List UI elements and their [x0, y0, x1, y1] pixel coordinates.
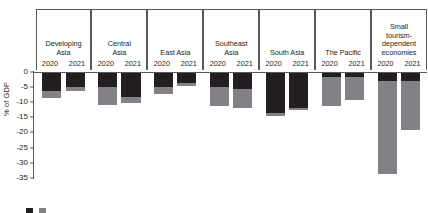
year-label-row: 20202021 — [148, 59, 202, 68]
bar-1-2021-dark — [66, 73, 85, 87]
legend-swatch — [26, 208, 33, 213]
group-header-3: East Asia20202021 — [147, 9, 203, 70]
group-header-6: The Pacific20202021 — [315, 9, 371, 70]
group-header-1: DevelopingAsia20202021 — [36, 9, 92, 70]
group-header-7: Smalltourism-dependenteconomies20202021 — [371, 9, 427, 70]
bar-6-2020-dark — [322, 73, 341, 77]
group-header-topline — [259, 9, 315, 10]
year-label-2021: 2021 — [343, 59, 370, 68]
year-label-2021: 2021 — [399, 59, 426, 68]
chart-legend — [26, 207, 48, 213]
group-label: Smalltourism-dependenteconomies — [372, 23, 426, 57]
bar-7-2021-dark — [401, 73, 420, 81]
y-tick-label: -10 — [0, 98, 28, 106]
year-label-row: 20202021 — [316, 59, 370, 68]
year-label-2021: 2021 — [175, 59, 202, 68]
bar-6-2021-gray — [345, 73, 364, 100]
year-label-2020: 2020 — [204, 59, 231, 68]
bar-7-2020-gray — [378, 73, 397, 174]
y-tick-label: -35 — [0, 174, 28, 182]
bar-7-2021-gray — [401, 73, 420, 130]
bar-4-2021-dark — [233, 73, 252, 89]
group-label: SoutheastAsia — [204, 40, 258, 57]
year-label-2020: 2020 — [92, 59, 119, 68]
group-header-topline — [91, 9, 147, 10]
bar-4-2020-dark — [210, 73, 229, 87]
y-axis-line — [33, 71, 34, 179]
legend-item-2 — [39, 208, 48, 213]
bar-6-2020-gray — [322, 73, 341, 106]
year-label-row: 20202021 — [204, 59, 258, 68]
y-tick-label: -20 — [0, 128, 28, 136]
group-header-topline — [315, 9, 371, 10]
bar-1-2020-dark — [42, 73, 61, 91]
group-label: DevelopingAsia — [37, 40, 91, 57]
bar-3-2021-dark — [177, 73, 196, 83]
group-header-2: CentralAsia20202021 — [91, 9, 147, 70]
year-label-2021: 2021 — [287, 59, 314, 68]
group-label: East Asia — [148, 49, 202, 57]
bar-5-2020-dark — [266, 73, 285, 113]
year-label-row: 20202021 — [92, 59, 146, 68]
y-tick-label: 0 — [0, 68, 28, 76]
bar-2-2020-dark — [98, 73, 117, 87]
year-label-2020: 2020 — [372, 59, 399, 68]
group-header-topline — [147, 9, 203, 10]
bar-3-2020-dark — [154, 73, 173, 87]
year-label-2020: 2020 — [316, 59, 343, 68]
y-tick-label: -30 — [0, 159, 28, 167]
group-label: CentralAsia — [92, 40, 146, 57]
legend-item-1 — [26, 208, 35, 213]
year-label-2021: 2021 — [119, 59, 146, 68]
year-label-2020: 2020 — [260, 59, 287, 68]
y-tick-label: -25 — [0, 144, 28, 152]
group-label: The Pacific — [316, 49, 370, 57]
y-tick-label: -15 — [0, 113, 28, 121]
group-header-topline — [203, 9, 259, 10]
group-header-4: SoutheastAsia20202021 — [203, 9, 259, 70]
bar-chart: % of GDP 0-5-10-15-20-25-30-35 Developin… — [0, 0, 428, 213]
year-label-2020: 2020 — [148, 59, 175, 68]
year-label-row: 20202021 — [372, 59, 426, 68]
y-tick-label: -5 — [0, 83, 28, 91]
group-header-5: South Asia20202021 — [259, 9, 315, 70]
year-label-2021: 2021 — [63, 59, 90, 68]
legend-swatch — [39, 208, 46, 213]
zero-baseline — [33, 72, 427, 73]
year-label-2020: 2020 — [37, 59, 64, 68]
group-header-topline — [371, 9, 427, 10]
bar-6-2021-dark — [345, 73, 364, 77]
bar-7-2020-dark — [378, 73, 397, 81]
group-label: South Asia — [260, 49, 314, 57]
year-label-2021: 2021 — [231, 59, 258, 68]
year-label-row: 20202021 — [37, 59, 91, 68]
year-label-row: 20202021 — [260, 59, 314, 68]
bar-5-2021-dark — [289, 73, 308, 108]
bar-2-2021-dark — [121, 73, 140, 97]
group-header-topline — [36, 9, 92, 10]
